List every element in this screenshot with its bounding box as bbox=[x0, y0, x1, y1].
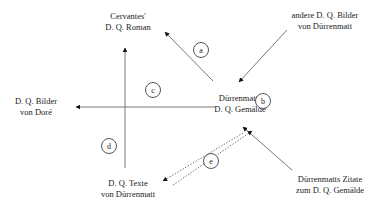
arrow-b bbox=[243, 127, 292, 170]
node-andere: andere D. Q. Bilder von Dürrenmatt bbox=[280, 10, 370, 31]
node-texte: D. Q. Texte von Dürrenmatt bbox=[93, 178, 163, 199]
node-dore-line2: von Doré bbox=[6, 107, 66, 118]
label-a: a bbox=[193, 42, 209, 58]
label-d: d bbox=[101, 138, 117, 154]
node-zitate: Dürrenmatts Zitate zum D. Q. Gemälde bbox=[285, 174, 375, 195]
node-zitate-line1: Dürrenmatts Zitate bbox=[285, 174, 375, 185]
node-texte-line2: von Dürrenmatt bbox=[93, 189, 163, 200]
node-dore: D. Q. Bilder von Doré bbox=[6, 96, 66, 117]
arrow-andere-to-center bbox=[239, 30, 287, 82]
node-cervantes-line1: Cervantes' bbox=[98, 11, 158, 22]
node-andere-line2: von Dürrenmatt bbox=[280, 21, 370, 32]
label-e: e bbox=[203, 153, 219, 169]
node-zitate-line2: zum D. Q. Gemälde bbox=[285, 185, 375, 196]
label-c: c bbox=[145, 82, 161, 98]
label-b: b bbox=[255, 93, 271, 109]
node-dore-line1: D. Q. Bilder bbox=[6, 96, 66, 107]
node-cervantes-line2: D. Q. Roman bbox=[98, 22, 158, 33]
node-cervantes: Cervantes' D. Q. Roman bbox=[98, 11, 158, 32]
arrow-a bbox=[165, 32, 213, 81]
node-texte-line1: D. Q. Texte bbox=[93, 178, 163, 189]
node-andere-line1: andere D. Q. Bilder bbox=[280, 10, 370, 21]
